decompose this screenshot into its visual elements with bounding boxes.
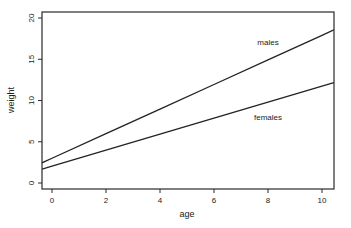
series-lines <box>42 30 334 169</box>
y-axis: 05101520 <box>27 13 42 185</box>
y-tick-label: 0 <box>27 180 36 185</box>
x-tick-label: 2 <box>104 196 109 205</box>
y-tick-label: 10 <box>27 96 36 105</box>
annotation-males: males <box>257 38 278 47</box>
annotation-females: females <box>254 113 282 122</box>
x-tick-label: 0 <box>50 196 55 205</box>
line-males <box>42 30 334 163</box>
line-chart: 0246810 05101520 malesfemales age weight <box>0 0 351 228</box>
x-tick-label: 10 <box>318 196 327 205</box>
x-tick-label: 6 <box>212 196 217 205</box>
y-tick-label: 20 <box>27 13 36 22</box>
x-tick-label: 8 <box>266 196 271 205</box>
plot-frame <box>42 12 334 189</box>
plot-border <box>42 12 334 189</box>
y-tick-label: 5 <box>27 139 36 144</box>
y-tick-label: 15 <box>27 54 36 63</box>
y-axis-label: weight <box>6 86 16 114</box>
x-tick-label: 4 <box>158 196 163 205</box>
series-annotations: malesfemales <box>254 38 282 122</box>
x-axis-label: age <box>179 209 194 219</box>
line-females <box>42 83 334 170</box>
x-axis: 0246810 <box>50 189 327 205</box>
